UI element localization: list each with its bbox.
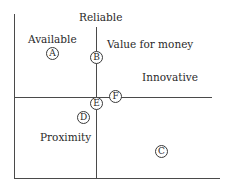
marker-b: B (90, 51, 103, 64)
axis-label-reliable: Reliable (79, 12, 122, 23)
marker-d: D (77, 111, 90, 124)
positioning-diagram: Reliable Available Value for money Innov… (0, 0, 226, 187)
marker-c: C (155, 145, 168, 158)
region-label-available: Available (28, 34, 77, 45)
region-label-proximity: Proximity (40, 132, 91, 143)
marker-e: E (90, 97, 103, 110)
marker-a: A (46, 47, 59, 60)
bottom-baseline (14, 178, 220, 179)
region-label-innovative: Innovative (142, 72, 198, 83)
region-label-value-for-money: Value for money (107, 39, 193, 50)
marker-f: F (109, 90, 122, 103)
